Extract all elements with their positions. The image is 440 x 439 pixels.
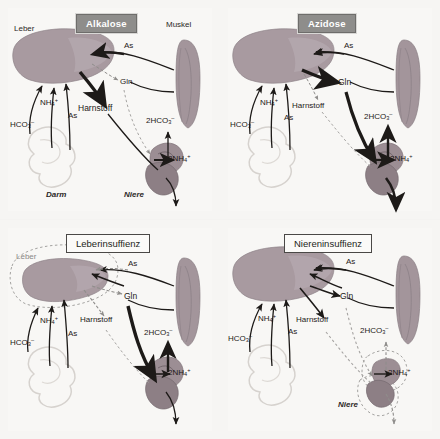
niereninsuffizienz-artwork: [228, 228, 432, 431]
azidose-artwork: [228, 8, 432, 211]
panel-alkalose-canvas: Alkalose Leber Muskel Darm Niere HCO3– N…: [8, 8, 212, 211]
chem-bicarbonate-azidose-text: HCO: [230, 120, 248, 129]
panel-title-alkalose: Alkalose: [76, 14, 137, 33]
chem-glutamine-azidose: Gln: [338, 78, 351, 87]
chem-urea: Harnstoff: [78, 104, 112, 113]
organ-label-gut: Darm: [46, 190, 66, 199]
chem-renal-ammonium-leber-sup: +: [187, 367, 190, 373]
panel-alkalose: Alkalose Leber Muskel Darm Niere HCO3– N…: [0, 0, 220, 219]
chem-ammonium-leber-sup: +: [55, 315, 58, 321]
chem-bicarbonate-azidose-sup: –: [251, 119, 254, 125]
chem-ammonium-sup: +: [55, 97, 58, 103]
chem-glutamine-niere: Gln: [340, 292, 353, 301]
chem-amino-acids-muscle-leber: As: [128, 260, 137, 268]
panel-niereninsuffizienz-canvas: Niereninsuffienz Niere HCO3– NH4+ As As …: [228, 228, 432, 431]
chem-renal-bicarbonate-azidose-sup: –: [389, 111, 392, 117]
chem-renal-ammonium-niere-text: 2NH: [388, 368, 404, 377]
chem-renal-ammonium-niere: 2NH4+: [388, 368, 410, 378]
chem-renal-bicarbonate-azidose: 2HCO3–: [364, 112, 392, 122]
chem-ammonium-niere-text: NH: [258, 314, 270, 323]
chem-renal-ammonium: 2NH4+: [168, 154, 190, 164]
chem-glutamine-leber: Gln: [124, 292, 137, 301]
organ-label-kidney: Niere: [124, 190, 144, 199]
chem-ammonium-azidose: NH4+: [260, 98, 278, 108]
chem-renal-ammonium-azidose-text: 2NH: [390, 154, 406, 163]
panel-niereninsuffizienz: Niereninsuffienz Niere HCO3– NH4+ As As …: [220, 220, 440, 439]
chem-renal-ammonium-text: 2NH: [168, 154, 184, 163]
chem-renal-bicarbonate-leber-sup: –: [169, 327, 172, 333]
panel-azidose: Azidose HCO3– NH4+ As As Gln Harnstoff 2…: [220, 0, 440, 219]
panel-leberinsuffizienz-canvas: Leberinsuffienz Leber HCO3– NH4+ As As G…: [8, 228, 212, 431]
chem-bicarbonate-leber-sup: –: [31, 337, 34, 343]
chem-ammonium-text: NH: [40, 98, 52, 107]
organ-label-liver-leberinsuffizienz: Leber: [16, 252, 36, 261]
panel-azidose-canvas: Azidose HCO3– NH4+ As As Gln Harnstoff 2…: [228, 8, 432, 211]
leberinsuffizienz-artwork: [8, 228, 212, 431]
chem-amino-acids-gut: As: [68, 112, 77, 120]
chem-glutamine: Gln: [120, 78, 132, 86]
chem-renal-bicarbonate-text: 2HCO: [146, 116, 168, 125]
panel-title-niereninsuffizienz: Niereninsuffienz: [284, 234, 372, 253]
chem-amino-acids-muscle: As: [124, 42, 133, 50]
chem-bicarbonate-leber-text: HCO: [10, 338, 28, 347]
chem-bicarbonate-text: HCO: [10, 120, 28, 129]
chem-amino-acids-muscle-azidose: As: [344, 42, 353, 50]
chem-renal-ammonium-leber-text: 2NH: [168, 368, 184, 377]
panel-title-azidose: Azidose: [298, 14, 356, 33]
panel-title-leberinsuffizienz: Leberinsuffienz: [66, 234, 150, 253]
chem-bicarbonate-azidose: HCO3–: [230, 120, 254, 130]
chem-renal-bicarbonate: 2HCO3–: [146, 116, 174, 126]
chem-amino-acids-gut-niere: As: [288, 328, 297, 336]
chem-renal-bicarbonate-niere: 2HCO3–: [360, 326, 388, 336]
chem-ammonium-niere-sup: +: [273, 313, 276, 319]
chem-ammonium-azidose-text: NH: [260, 98, 272, 107]
chem-ammonium-leber: NH4+: [40, 316, 58, 326]
figure-root: Alkalose Leber Muskel Darm Niere HCO3– N…: [0, 0, 440, 439]
chem-renal-bicarbonate-sup: –: [171, 115, 174, 121]
chem-renal-bicarbonate-leber: 2HCO3–: [144, 328, 172, 338]
chem-ammonium: NH4+: [40, 98, 58, 108]
chem-bicarbonate-sup: –: [31, 119, 34, 125]
chem-renal-ammonium-leber: 2NH4+: [168, 368, 190, 378]
chem-bicarbonate: HCO3–: [10, 120, 34, 130]
chem-bicarbonate-leber: HCO3–: [10, 338, 34, 348]
chem-amino-acids-gut-azidose: As: [284, 114, 293, 122]
chem-amino-acids-muscle-niere: As: [346, 258, 355, 266]
chem-renal-bicarbonate-niere-sup: –: [385, 325, 388, 331]
chem-renal-bicarbonate-niere-text: 2HCO: [360, 326, 382, 335]
panel-leberinsuffizienz: Leberinsuffienz Leber HCO3– NH4+ As As G…: [0, 220, 220, 439]
chem-urea-niere: Harnstoff: [296, 316, 328, 324]
chem-bicarbonate-niere-sup: –: [249, 333, 252, 339]
chem-ammonium-niere: NH4+: [258, 314, 276, 324]
chem-renal-ammonium-niere-sup: +: [407, 367, 410, 373]
chem-renal-bicarbonate-azidose-text: 2HCO: [364, 112, 386, 121]
chem-ammonium-azidose-sup: +: [275, 97, 278, 103]
organ-label-kidney-niereninsuffizienz: Niere: [338, 400, 358, 409]
chem-renal-ammonium-sup: +: [187, 153, 190, 159]
chem-amino-acids-gut-leber: As: [68, 330, 77, 338]
chem-renal-ammonium-azidose: 2NH4+: [390, 154, 412, 164]
chem-urea-leber: Harnstoff: [80, 316, 112, 324]
chem-ammonium-leber-text: NH: [40, 316, 52, 325]
chem-bicarbonate-niere-text: HCO: [228, 334, 246, 343]
chem-urea-azidose: Harnstoff: [292, 102, 324, 110]
chem-renal-ammonium-azidose-sup: +: [409, 153, 412, 159]
chem-renal-bicarbonate-leber-text: 2HCO: [144, 328, 166, 337]
organ-label-liver: Leber: [14, 24, 34, 33]
chem-bicarbonate-niere: HCO3–: [228, 334, 252, 344]
organ-label-muscle: Muskel: [166, 20, 191, 29]
